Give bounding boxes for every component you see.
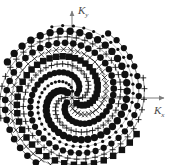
data-point-marker [89,127,95,133]
data-point-marker [32,56,38,62]
data-point-marker [46,55,52,61]
data-point-marker [131,126,137,132]
data-point-marker [94,143,97,146]
plot-canvas [0,0,173,165]
data-point-marker [131,83,134,86]
data-point-marker [127,139,133,145]
data-point-marker [72,24,75,27]
data-point-marker [128,109,131,112]
data-point-marker [22,55,29,62]
data-point-marker [32,124,38,130]
data-point-marker [33,159,40,165]
data-point-marker [101,151,107,157]
data-point-marker [61,80,64,83]
data-point-marker [14,102,20,108]
data-point-marker [9,91,15,97]
data-point-marker [12,82,18,88]
data-point-marker [19,79,25,85]
data-point-marker [68,149,74,155]
data-point-marker [23,144,29,150]
data-point-marker [34,62,40,68]
data-point-marker [53,144,59,150]
data-point-marker [121,45,127,51]
data-point-marker [65,81,68,84]
data-point-marker [16,118,22,124]
data-point-marker [37,111,40,114]
data-point-marker [102,41,109,48]
data-point-marker [134,73,140,79]
data-point-marker [28,66,34,72]
data-point-marker [113,37,119,43]
data-point-marker [27,104,33,110]
data-point-marker [117,94,123,100]
data-point-marker [106,66,113,73]
data-point-marker [72,55,78,61]
data-point-marker [43,87,46,90]
data-point-marker [74,156,80,162]
data-point-marker [23,134,29,140]
data-point-marker [133,131,139,137]
data-point-marker [123,79,130,86]
data-point-marker [37,32,44,39]
data-point-marker [36,130,42,136]
data-point-marker [78,129,84,135]
data-point-marker [11,50,18,57]
data-point-marker [39,52,45,58]
data-point-marker [65,143,68,146]
data-point-marker [85,32,92,39]
data-point-marker [53,54,59,60]
x-axis-label: Kx [154,104,164,119]
data-point-marker [92,148,98,154]
data-point-marker [3,117,10,124]
data-point-marker [127,64,130,67]
data-point-marker [117,79,123,85]
data-point-marker [28,43,34,49]
data-point-marker [61,24,64,27]
data-point-marker [91,160,97,165]
data-point-marker [102,60,109,67]
data-point-marker [25,61,31,67]
data-point-marker [108,57,114,63]
y-axis-label-sub: y [85,11,88,19]
data-point-marker [92,30,95,33]
data-point-marker [65,61,71,67]
data-point-marker [141,96,147,102]
data-point-marker [29,117,35,123]
data-point-marker [52,137,55,140]
data-point-marker [112,64,118,70]
data-point-marker [103,91,109,97]
data-point-marker [134,103,140,109]
data-point-marker [130,73,133,76]
data-point-marker [100,122,106,128]
x-axis-label-sub: x [161,111,164,119]
data-point-marker [29,92,35,98]
data-point-marker [43,153,49,159]
data-point-marker [95,125,101,131]
data-point-marker [116,48,119,51]
data-point-marker [115,135,121,141]
data-point-marker [101,35,104,38]
data-point-marker [28,111,34,117]
data-point-marker [29,141,35,147]
data-point-marker [58,80,61,83]
data-point-marker [26,126,32,132]
data-point-marker [121,71,128,78]
data-point-marker [43,65,49,71]
data-point-marker [23,72,29,78]
data-point-marker [37,100,40,103]
data-point-marker [105,118,111,124]
data-point-marker [38,117,41,120]
data-point-marker [48,62,54,68]
data-point-marker [87,55,93,61]
data-point-marker [94,36,101,43]
data-point-marker [86,145,89,148]
data-point-marker [85,45,92,52]
data-point-marker [60,61,66,67]
data-point-marker [38,96,41,99]
data-point-marker [23,89,29,95]
data-point-marker [122,56,125,59]
data-point-marker [43,128,46,131]
data-point-marker [110,85,117,92]
data-point-marker [36,148,42,154]
data-point-marker [46,29,53,36]
